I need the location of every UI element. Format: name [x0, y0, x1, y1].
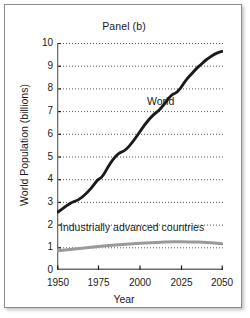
y-tick-10: 10	[31, 38, 53, 48]
x-tick-1950: 1950	[38, 277, 78, 288]
chart-title: Panel (b)	[5, 20, 243, 32]
chart-figure: Panel (b) World Population (billions) 10…	[0, 0, 250, 318]
figure-frame: Panel (b) World Population (billions) 10…	[4, 4, 242, 308]
series-label-world: World	[147, 95, 174, 107]
x-axis-title: Year	[5, 293, 243, 305]
y-tick-1: 1	[31, 242, 53, 252]
gridlines	[57, 44, 223, 248]
y-tick-5: 5	[31, 152, 53, 162]
x-tick-2050: 2050	[202, 277, 242, 288]
x-axis-tick-labels: 1950 1975 2000 2025 2050	[57, 277, 223, 291]
y-tick-2: 2	[31, 220, 53, 230]
y-tick-9: 9	[31, 61, 53, 71]
y-tick-4: 4	[31, 174, 53, 184]
y-tick-6: 6	[31, 129, 53, 139]
y-axis-tick-labels: 10 9 8 7 6 5 4 3 2 1 0	[29, 43, 53, 270]
y-tick-0: 0	[31, 265, 53, 275]
x-tick-2025: 2025	[162, 277, 202, 288]
x-tick-1975: 1975	[79, 277, 119, 288]
x-tick-2000: 2000	[120, 277, 160, 288]
series-label-industrial: Industrially advanced countries	[60, 221, 204, 233]
series-line-world	[58, 51, 222, 212]
y-tick-3: 3	[31, 197, 53, 207]
series-line-industrial	[58, 242, 222, 251]
y-tick-7: 7	[31, 106, 53, 116]
plot-area: World Industrially advanced countries	[57, 43, 223, 270]
y-tick-8: 8	[31, 83, 53, 93]
